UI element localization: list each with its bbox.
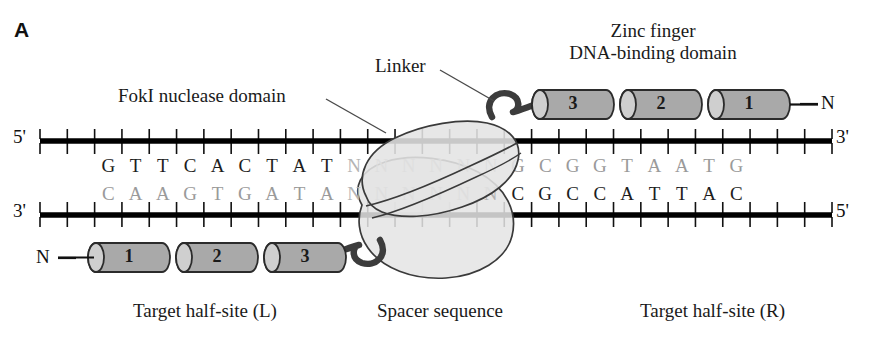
zinc-finger-bottom-label-3: 3 — [292, 246, 318, 267]
zinc-finger-bottom-label-1: 1 — [116, 246, 142, 267]
label-n-terminus-bottom: N — [36, 246, 50, 268]
leader-line-fok — [326, 99, 386, 133]
label-target-half-site-right: Target half-site (R) — [600, 300, 825, 322]
label-fok-nuclease-domain: FokI nuclease domain — [118, 85, 286, 107]
label-n-terminus-top: N — [821, 92, 835, 114]
zinc-finger-top-label-3: 3 — [560, 93, 586, 114]
zinc-finger-top-label-2: 2 — [648, 93, 674, 114]
zinc-finger-bottom-label-2: 2 — [204, 246, 230, 267]
label-target-half-site-left: Target half-site (L) — [95, 300, 315, 322]
label-spacer-sequence: Spacer sequence — [345, 300, 535, 322]
label-zinc-finger-line2: DNA-binding domain — [533, 42, 773, 64]
label-three-prime-left: 3' — [13, 200, 26, 222]
label-five-prime-right: 5' — [836, 200, 849, 222]
label-three-prime-right: 3' — [836, 126, 849, 148]
label-zinc-finger-line1: Zinc finger — [533, 20, 773, 42]
label-five-prime-left: 5' — [13, 126, 26, 148]
figure-canvas: A GTTCACTATNNNNNNGCGGTAATGCAAGTGATANNNNN… — [0, 0, 871, 341]
leader-line-linker — [440, 70, 494, 101]
zinc-finger-top-label-1: 1 — [736, 93, 762, 114]
label-linker: Linker — [375, 55, 426, 77]
label-zinc-finger-domain: Zinc finger DNA-binding domain — [533, 20, 773, 64]
